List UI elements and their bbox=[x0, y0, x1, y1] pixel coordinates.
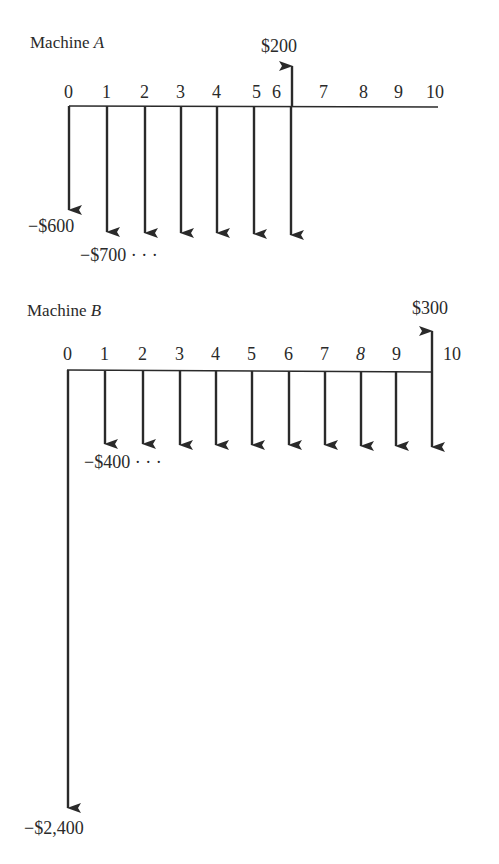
machine-a-annual-cost-label: −$700 · · · bbox=[80, 245, 158, 265]
period-label: 0 bbox=[64, 82, 73, 102]
period-label: 2 bbox=[138, 344, 147, 364]
period-label: 1 bbox=[102, 82, 111, 102]
period-label: 10 bbox=[443, 344, 461, 364]
period-label: 8 bbox=[356, 344, 365, 364]
machine-a-initial-cost-label: −$600 bbox=[28, 216, 74, 236]
machine-b-diagram: Machine B 0 1 2 3 4 5 6 7 8 9 10 bbox=[24, 298, 461, 838]
machine-b-title: Machine B bbox=[27, 301, 102, 320]
period-label: 5 bbox=[247, 344, 256, 364]
period-label: 6 bbox=[272, 82, 281, 102]
period-label: 5 bbox=[252, 82, 261, 102]
period-label: 2 bbox=[140, 82, 149, 102]
period-label: 10 bbox=[426, 82, 444, 102]
machine-b-salvage-label: $300 bbox=[412, 298, 448, 318]
period-label: 3 bbox=[175, 344, 184, 364]
cash-flow-diagrams: Machine A 0 1 2 3 4 5 6 7 8 9 10 bbox=[0, 0, 499, 864]
period-label: 3 bbox=[176, 82, 185, 102]
machine-b-time-axis bbox=[67, 370, 432, 372]
period-label: 4 bbox=[211, 344, 220, 364]
machine-a-salvage-label: $200 bbox=[261, 36, 297, 56]
period-label: 7 bbox=[319, 82, 328, 102]
period-label: 0 bbox=[63, 344, 72, 364]
period-label: 6 bbox=[284, 344, 293, 364]
period-label: 1 bbox=[100, 344, 109, 364]
machine-a-diagram: Machine A 0 1 2 3 4 5 6 7 8 9 10 bbox=[28, 33, 444, 265]
period-label: 9 bbox=[394, 82, 403, 102]
period-label: 9 bbox=[392, 344, 401, 364]
machine-a-period-labels: 0 1 2 3 4 5 6 7 8 9 10 bbox=[64, 82, 444, 102]
period-label: 8 bbox=[359, 82, 368, 102]
machine-a-outflow-arrows bbox=[69, 106, 291, 235]
period-label: 7 bbox=[320, 344, 329, 364]
period-label: 4 bbox=[212, 82, 221, 102]
machine-b-outflow-arrows bbox=[105, 371, 432, 447]
machine-a-title: Machine A bbox=[30, 33, 105, 52]
machine-b-period-labels: 0 1 2 3 4 5 6 7 8 9 10 bbox=[63, 344, 461, 364]
machine-b-annual-cost-label: −$400 · · · bbox=[84, 452, 162, 472]
machine-b-initial-cost-label: −$2,400 bbox=[24, 818, 84, 838]
